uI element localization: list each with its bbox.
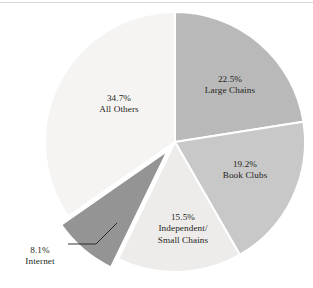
pie-chart-figure: 22.5%Large Chains19.2%Book Clubs15.5%Ind… xyxy=(0,0,313,288)
pie-label-internet: 8.1%Internet xyxy=(25,245,55,266)
pie-chart-svg: 22.5%Large Chains19.2%Book Clubs15.5%Ind… xyxy=(0,0,313,288)
